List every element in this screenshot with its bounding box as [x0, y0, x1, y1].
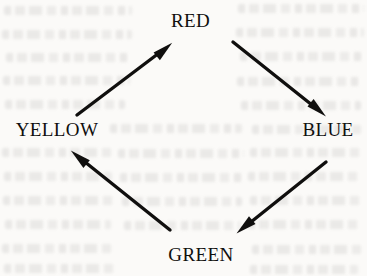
- node-label-red: RED: [0, 11, 367, 31]
- color-cycle-diagram: RED BLUE GREEN YELLOW: [0, 0, 367, 276]
- edge-red-to-blue: [233, 42, 326, 117]
- node-label-yellow: YELLOW: [8, 120, 106, 140]
- node-label-green: GREEN: [0, 245, 367, 265]
- edge-green-to-yellow: [71, 151, 170, 230]
- arrowhead-yellow-to-red: [154, 43, 173, 61]
- edge-yellow-to-red: [77, 43, 172, 115]
- edge-blue-to-green: [237, 162, 327, 234]
- node-label-blue: BLUE: [296, 120, 360, 140]
